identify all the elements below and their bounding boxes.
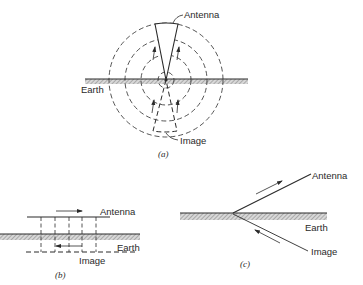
antenna-leader-a (173, 15, 183, 23)
panel-a: Antenna Earth Image (a) (81, 9, 248, 159)
caption-c: (c) (240, 259, 250, 269)
panel-c: Antenna Earth Image (c) (180, 170, 348, 269)
earth-label-c: Earth (305, 222, 328, 233)
antenna-wire-c (233, 174, 311, 213)
earth-label-b: Earth (117, 242, 140, 253)
antenna-label-a: Antenna (184, 9, 220, 20)
caption-a: (a) (158, 149, 169, 159)
image-label-a: Image (180, 135, 206, 146)
antenna-image-figure: Antenna Earth Image (a) Antenna Earth Im… (0, 0, 363, 285)
earth-surface-b (0, 234, 140, 240)
image-current-arrow-c (255, 230, 280, 243)
image-label-c: Image (311, 246, 337, 257)
image-cone (153, 80, 177, 132)
earth-surface-c (180, 213, 327, 220)
antenna-current-arrow-c (256, 181, 282, 194)
image-label-b: Image (79, 255, 105, 266)
antenna-cone (155, 23, 178, 80)
panel-b: Antenna Earth Image (b) (0, 206, 140, 280)
antenna-label-c: Antenna (312, 170, 348, 181)
caption-b: (b) (55, 270, 66, 280)
earth-label-a: Earth (81, 84, 104, 95)
antenna-label-b: Antenna (100, 206, 136, 217)
feed-point (164, 78, 167, 81)
